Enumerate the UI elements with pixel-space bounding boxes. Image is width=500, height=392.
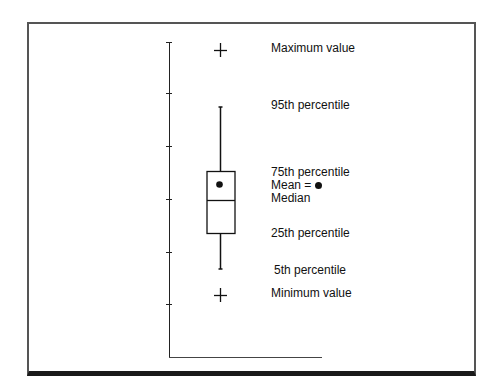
maximum-plus-icon (214, 43, 227, 57)
y-axis (166, 42, 172, 357)
upper-whisker (219, 107, 223, 171)
interquartile-box (207, 172, 235, 234)
label-minimum-value: Minimum value (271, 287, 352, 300)
minimum-plus-icon (214, 288, 227, 302)
box-plot-diagram (0, 0, 500, 392)
label-mean-text: Mean = (271, 178, 311, 192)
mean-dot-icon (216, 181, 223, 188)
label-95th-percentile: 95th percentile (271, 99, 350, 112)
mean-dot-legend-icon (315, 182, 322, 189)
label-median: Median (271, 192, 310, 205)
label-maximum-value: Maximum value (271, 42, 355, 55)
label-5th-percentile: 5th percentile (274, 264, 346, 277)
lower-whisker (219, 234, 223, 270)
label-25th-percentile: 25th percentile (271, 227, 350, 240)
